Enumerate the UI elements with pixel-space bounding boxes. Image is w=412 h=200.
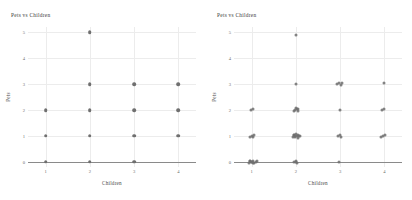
chart-panel-left: Pets vs Children Children Pets 123401234… (0, 0, 206, 200)
gridline-horizontal (234, 84, 402, 85)
gridline-horizontal (234, 32, 402, 33)
data-point (177, 108, 181, 112)
data-point (132, 134, 136, 138)
y-tick-label: 5 (19, 30, 25, 35)
x-tick-label: 1 (45, 169, 47, 174)
gridline-horizontal (28, 32, 196, 33)
x-tick-label: 2 (89, 169, 91, 174)
y-tick-label: 2 (225, 107, 231, 112)
data-point (298, 134, 301, 137)
data-point (383, 108, 386, 111)
plot-area-left (28, 27, 196, 167)
data-point (88, 134, 92, 138)
y-axis-label-right: Pets (211, 92, 217, 101)
gridline-horizontal (28, 84, 196, 85)
data-point (44, 160, 48, 164)
figure-canvas: Pets vs Children Children Pets 123401234… (0, 0, 412, 200)
x-tick-label: 4 (383, 169, 385, 174)
chart-title-right: Pets vs Children (217, 12, 256, 18)
plot-area-right (234, 27, 402, 167)
gridline-vertical (296, 27, 297, 167)
gridline-horizontal (28, 110, 196, 111)
y-tick-label: 0 (19, 159, 25, 164)
y-tick-label: 1 (19, 133, 25, 138)
gridline-vertical (134, 27, 135, 167)
data-point (293, 135, 296, 138)
data-point (295, 160, 298, 163)
y-axis-label-left: Pets (5, 92, 11, 101)
gridline-vertical (340, 27, 341, 167)
chart-title-left: Pets vs Children (11, 12, 50, 18)
data-point (383, 82, 386, 85)
gridline-vertical (384, 27, 385, 167)
gridline-horizontal (28, 136, 196, 137)
data-point (251, 108, 254, 111)
data-point (132, 82, 136, 86)
x-tick-label: 3 (133, 169, 135, 174)
x-axis-label-left: Children (102, 180, 122, 186)
data-point (250, 160, 253, 163)
gridline-horizontal (234, 110, 402, 111)
data-point (341, 82, 344, 85)
gridline-vertical (178, 27, 179, 167)
y-tick-label: 3 (19, 82, 25, 87)
x-tick-label: 3 (339, 169, 341, 174)
gridline-vertical (46, 27, 47, 167)
data-point (132, 160, 136, 164)
data-point (339, 109, 342, 112)
y-tick-label: 4 (225, 56, 231, 61)
data-point (44, 108, 48, 112)
data-point (88, 30, 92, 34)
y-tick-label: 0 (225, 159, 231, 164)
gridline-vertical (252, 27, 253, 167)
data-point (88, 82, 92, 86)
data-point (252, 136, 255, 139)
data-point (88, 160, 92, 164)
chart-panel-right: Pets vs Children Children Pets 123401234… (206, 0, 412, 200)
x-tick-label: 4 (177, 169, 179, 174)
data-point (44, 134, 48, 138)
x-tick-label: 1 (251, 169, 253, 174)
gridline-vertical (90, 27, 91, 167)
data-point (338, 160, 341, 163)
x-axis-label-right: Children (308, 180, 328, 186)
data-point (255, 160, 258, 163)
gridline-horizontal (28, 58, 196, 59)
data-point (383, 133, 386, 136)
y-tick-label: 3 (225, 82, 231, 87)
data-point (294, 33, 297, 36)
data-point (294, 82, 297, 85)
y-tick-label: 5 (225, 30, 231, 35)
data-point (177, 134, 181, 138)
data-point (177, 82, 181, 86)
y-tick-label: 4 (19, 56, 25, 61)
y-tick-label: 2 (19, 107, 25, 112)
data-point (132, 108, 136, 112)
y-tick-label: 1 (225, 133, 231, 138)
data-point (339, 135, 342, 138)
x-axis-line (234, 162, 402, 163)
data-point (88, 108, 92, 112)
gridline-horizontal (234, 136, 402, 137)
gridline-horizontal (234, 58, 402, 59)
x-tick-label: 2 (295, 169, 297, 174)
data-point (296, 108, 299, 111)
x-axis-line (28, 162, 196, 163)
